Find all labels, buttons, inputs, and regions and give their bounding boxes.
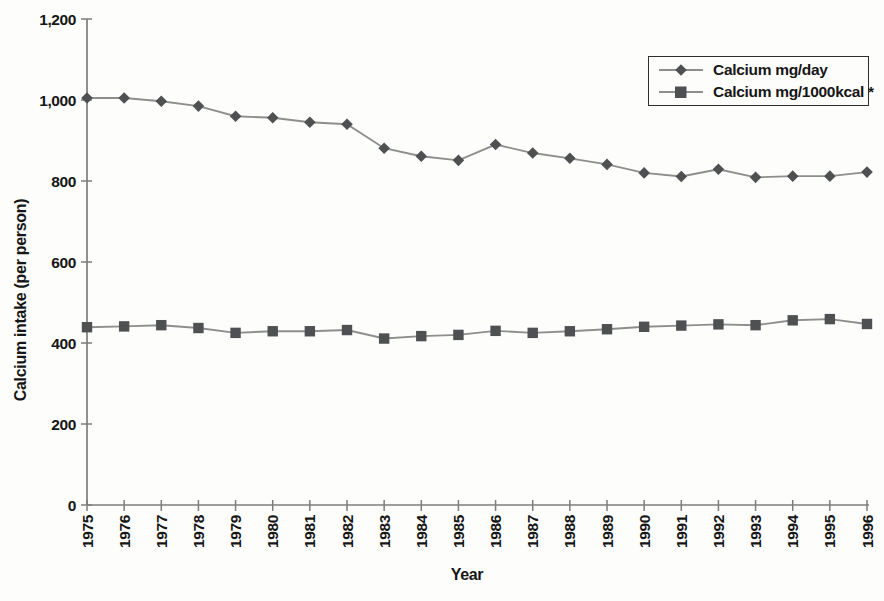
diamond-marker <box>675 171 687 183</box>
diamond-marker <box>230 110 242 122</box>
y-tick-label: 600 <box>51 254 76 271</box>
square-marker <box>862 319 872 329</box>
diamond-marker <box>267 112 279 124</box>
diamond-marker <box>861 166 873 178</box>
x-tick-label: 1996 <box>859 514 876 548</box>
legend-item-calcium-mg-1000kcal: Calcium mg/1000kcal * <box>658 83 868 101</box>
diamond-marker <box>638 167 650 179</box>
square-marker <box>639 322 649 332</box>
diamond-marker <box>453 155 465 167</box>
diamond-marker <box>750 172 762 184</box>
diamond-marker <box>824 170 836 182</box>
square-series-key-icon <box>658 85 704 99</box>
diamond-marker <box>601 159 613 171</box>
diamond-marker <box>81 92 93 104</box>
x-tick-label: 1979 <box>227 514 244 548</box>
x-tick-label: 1980 <box>264 515 281 548</box>
y-tick-label: 800 <box>51 173 76 190</box>
chart-figure: 02004006008001,0001,20019751976197719781… <box>0 0 884 601</box>
x-tick-label: 1988 <box>561 514 578 548</box>
x-tick-label: 1989 <box>599 514 616 548</box>
square-marker <box>268 326 278 336</box>
x-tick-label: 1984 <box>413 514 430 548</box>
square-marker <box>416 331 426 341</box>
diamond-marker <box>378 142 390 154</box>
y-tick-label: 1,000 <box>39 92 76 109</box>
diamond-marker <box>787 170 799 182</box>
square-marker <box>342 325 352 335</box>
square-marker <box>750 320 760 330</box>
diamond-marker <box>155 95 167 107</box>
legend: Calcium mg/day Calcium mg/1000kcal * <box>648 56 869 106</box>
square-marker <box>119 321 129 331</box>
x-tick-label: 1987 <box>524 515 541 548</box>
diamond-marker <box>341 119 353 131</box>
legend-item-calcium-mg-day: Calcium mg/day <box>658 61 868 79</box>
x-tick-label: 1994 <box>784 514 801 548</box>
diamond-marker <box>713 163 725 175</box>
square-marker <box>453 330 463 340</box>
diamond-marker <box>527 147 539 159</box>
diamond-marker <box>304 116 316 128</box>
square-marker <box>825 314 835 324</box>
x-axis-title: Year <box>87 566 847 584</box>
y-tick-label: 0 <box>68 497 76 514</box>
x-tick-label: 1985 <box>450 514 467 548</box>
y-tick-label: 200 <box>51 416 76 433</box>
square-marker <box>82 322 92 332</box>
square-marker <box>602 324 612 334</box>
y-tick-label: 1,200 <box>39 11 76 28</box>
legend-label-calcium-mg-1000kcal: Calcium mg/1000kcal * <box>713 83 874 101</box>
diamond-series-key-icon <box>658 63 704 77</box>
square-marker <box>528 328 538 338</box>
x-tick-label: 1975 <box>79 514 96 548</box>
legend-label-calcium-mg-day: Calcium mg/day <box>713 61 828 79</box>
x-tick-label: 1991 <box>673 514 690 548</box>
y-axis-title: Calcium intake (per person) <box>12 199 30 402</box>
square-marker <box>156 320 166 330</box>
x-tick-label: 1983 <box>376 514 393 548</box>
square-marker <box>230 328 240 338</box>
square-marker <box>788 315 798 325</box>
diamond-marker <box>415 150 427 162</box>
series-line-calcium-mg-day <box>87 98 867 177</box>
square-marker <box>305 326 315 336</box>
x-tick-label: 1976 <box>116 514 133 548</box>
x-tick-label: 1978 <box>190 514 207 548</box>
x-tick-label: 1993 <box>747 514 764 548</box>
square-marker <box>565 326 575 336</box>
square-marker <box>490 326 500 336</box>
diamond-marker <box>118 92 130 104</box>
y-tick-label: 400 <box>51 335 76 352</box>
square-marker <box>676 320 686 330</box>
x-tick-label: 1990 <box>636 515 653 548</box>
square-marker <box>193 323 203 333</box>
diamond-marker <box>490 139 502 151</box>
diamond-marker <box>564 153 576 165</box>
diamond-marker <box>193 100 205 112</box>
square-marker <box>379 333 389 343</box>
square-marker <box>713 319 723 329</box>
x-tick-label: 1995 <box>821 514 838 548</box>
x-tick-label: 1977 <box>153 515 170 548</box>
series-line-calcium-mg-1000kcal <box>87 319 867 338</box>
x-tick-label: 1986 <box>487 514 504 548</box>
x-tick-label: 1992 <box>710 515 727 548</box>
x-tick-label: 1981 <box>301 514 318 548</box>
x-tick-label: 1982 <box>339 515 356 548</box>
